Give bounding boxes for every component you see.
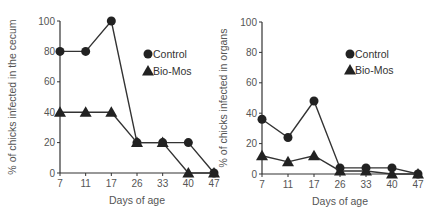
x-tick-label: 33 [157, 178, 169, 189]
y-tick-label: 0 [49, 168, 55, 179]
legend-label: Bio-Mos [153, 65, 192, 77]
circle-marker-icon [284, 133, 293, 142]
legend-label: Control [355, 48, 389, 60]
x-tick-label: 11 [283, 179, 294, 190]
series-line-control [60, 21, 214, 173]
y-axis-title: % of chicks infected in the cecum [6, 19, 18, 174]
legend-label: Control [153, 48, 187, 60]
y-axis-title: % of chicks infected in organs [217, 29, 229, 168]
x-tick-label: 26 [131, 178, 143, 189]
y-tick-label: 0 [251, 169, 257, 180]
x-tick-label: 33 [360, 179, 372, 190]
y-tick-label: 60 [44, 76, 56, 87]
triangle-marker-icon [80, 106, 92, 117]
triangle-marker-icon [308, 150, 320, 161]
x-axis-title: Days of age [312, 195, 368, 207]
circle-marker-icon [184, 138, 193, 147]
x-tick-label: 47 [412, 179, 424, 190]
y-tick-label: 80 [44, 46, 56, 57]
x-tick-label: 26 [334, 179, 346, 190]
x-tick-label: 7 [259, 179, 265, 190]
x-tick-label: 17 [106, 178, 118, 189]
circle-marker-icon [56, 47, 65, 56]
y-tick-label: 100 [38, 16, 55, 27]
y-tick-label: 40 [246, 108, 258, 119]
triangle-marker-icon [256, 150, 268, 161]
x-tick-label: 7 [57, 178, 63, 189]
y-tick-label: 100 [240, 17, 257, 28]
chart-organs: 0204060801007111726334047Days of age% of… [217, 17, 424, 208]
chart-cecum: 0204060801007111726334047Days of age% of… [6, 16, 220, 207]
y-tick-label: 20 [246, 138, 258, 149]
x-tick-label: 47 [208, 178, 220, 189]
y-tick-label: 40 [44, 107, 56, 118]
y-tick-label: 80 [246, 47, 258, 58]
triangle-marker-icon [54, 106, 66, 117]
x-tick-label: 11 [80, 178, 91, 189]
circle-marker-icon [81, 47, 90, 56]
x-axis-title: Days of age [109, 194, 165, 206]
y-tick-label: 20 [44, 137, 56, 148]
legend-label: Bio-Mos [355, 64, 394, 76]
x-tick-label: 40 [386, 179, 398, 190]
legend-circle-icon [346, 50, 355, 59]
chart-canvas: 0204060801007111726334047Days of age% of… [0, 0, 443, 214]
x-tick-label: 17 [308, 179, 320, 190]
triangle-marker-icon [105, 106, 117, 117]
legend-circle-icon [144, 50, 153, 59]
x-tick-label: 40 [183, 178, 195, 189]
circle-marker-icon [310, 97, 319, 106]
y-tick-label: 60 [246, 77, 258, 88]
circle-marker-icon [107, 17, 116, 26]
circle-marker-icon [258, 115, 267, 124]
